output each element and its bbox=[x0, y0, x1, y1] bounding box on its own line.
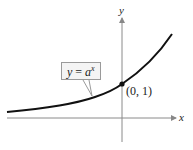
function-label: y = ax bbox=[67, 64, 95, 80]
intercept-point bbox=[119, 81, 124, 86]
y-axis-label: y bbox=[119, 4, 124, 16]
function-label-box: y = ax bbox=[61, 62, 101, 80]
point-label: (0, 1) bbox=[126, 84, 152, 99]
x-axis-label: x bbox=[179, 111, 184, 123]
